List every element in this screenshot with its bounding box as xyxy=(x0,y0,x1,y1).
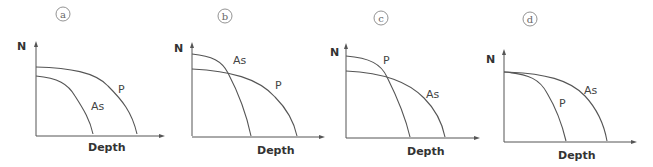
y-axis-arrow-icon xyxy=(344,43,348,49)
panel-c: c N P As Depth xyxy=(330,11,480,158)
curve-label-p: P xyxy=(383,54,390,67)
curve-label-p: P xyxy=(118,83,125,96)
badge-letter: a xyxy=(60,9,66,20)
badge-letter: d xyxy=(527,14,534,25)
y-axis-label: N xyxy=(174,42,183,55)
curve-as xyxy=(504,72,607,141)
x-axis-label: Depth xyxy=(257,144,295,157)
curve-as xyxy=(346,71,445,137)
y-axis-label: N xyxy=(17,40,26,53)
panel-d-badge: d xyxy=(523,12,537,26)
panel-a: a N P As Depth xyxy=(17,7,165,154)
x-axis-arrow-icon xyxy=(319,135,325,139)
curve-label-p: P xyxy=(559,97,566,110)
y-axis-arrow-icon xyxy=(502,49,506,55)
panel-a-badge: a xyxy=(56,7,70,21)
x-axis-label: Depth xyxy=(558,149,596,162)
x-axis-label: Depth xyxy=(407,145,445,158)
y-axis-arrow-icon xyxy=(190,42,194,48)
curve-p xyxy=(346,56,410,137)
curve-label-as: As xyxy=(233,54,247,67)
panel-b-badge: b xyxy=(218,9,232,23)
curve-p xyxy=(36,67,137,134)
panel-c-badge: c xyxy=(374,11,388,25)
x-axis-label: Depth xyxy=(88,141,126,154)
panel-b: b N As P Depth xyxy=(174,9,325,157)
y-axis-arrow-icon xyxy=(34,41,38,47)
y-axis-label: N xyxy=(486,53,495,66)
badge-letter: c xyxy=(378,13,384,24)
x-axis-arrow-icon xyxy=(474,136,480,140)
y-axis-label: N xyxy=(330,46,339,59)
curve-label-p: P xyxy=(275,79,282,92)
panel-d: d N As P Depth xyxy=(486,12,637,162)
diagram-canvas: a N P As Depth b N As P Depth c N xyxy=(0,0,653,167)
x-axis-arrow-icon xyxy=(631,140,637,144)
curve-label-as: As xyxy=(584,84,598,97)
curve-p xyxy=(504,72,566,141)
curve-as xyxy=(36,76,93,134)
x-axis-arrow-icon xyxy=(159,134,165,138)
badge-letter: b xyxy=(222,11,228,22)
curve-label-as: As xyxy=(426,88,440,101)
curve-label-as: As xyxy=(91,100,105,113)
